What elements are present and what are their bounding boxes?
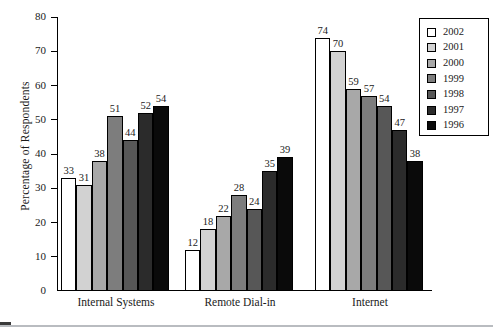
bar (346, 89, 361, 291)
y-axis-tick-label: 60 (0, 80, 46, 91)
bar-value-label: 70 (326, 39, 349, 50)
y-axis-tick-label: 40 (0, 148, 46, 159)
bar (61, 178, 76, 291)
legend-label: 1997 (443, 105, 464, 116)
x-axis-category-label: Remote Dial-in (180, 296, 300, 309)
bar (216, 216, 231, 291)
bar (92, 161, 107, 291)
bar (377, 106, 392, 291)
legend-swatch-icon (427, 121, 436, 130)
legend: 2002200120001999199819971996 (419, 18, 489, 136)
legend-swatch-icon (427, 74, 436, 83)
legend-swatch-icon (427, 106, 436, 115)
bar (361, 96, 376, 291)
bar-value-label: 51 (103, 104, 126, 115)
legend-label: 2000 (443, 58, 464, 69)
y-axis-tick-label: 50 (0, 114, 46, 125)
bar (200, 229, 215, 291)
bar-value-label: 39 (273, 145, 296, 156)
x-axis-category-label: Internet (310, 296, 430, 309)
legend-swatch-icon (427, 59, 436, 68)
bar (231, 195, 246, 291)
legend-item-2001[interactable]: 2001 (427, 41, 464, 55)
bar (315, 38, 330, 291)
y-axis-tick-label: 0 (0, 285, 46, 296)
legend-label: 2002 (443, 27, 464, 38)
bar-value-label: 74 (311, 26, 334, 37)
legend-swatch-icon (427, 90, 436, 99)
legend-swatch-icon (427, 43, 436, 52)
legend-swatch-icon (427, 28, 436, 37)
x-axis-category-label: Internal Systems (56, 296, 176, 309)
legend-item-1999[interactable]: 1999 (427, 72, 464, 86)
legend-item-1997[interactable]: 1997 (427, 103, 464, 117)
y-axis-tick-label: 10 (0, 251, 46, 262)
bar (76, 185, 91, 291)
bar (153, 106, 168, 291)
legend-item-2002[interactable]: 2002 (427, 25, 464, 39)
bar (262, 171, 277, 291)
bar-value-label: 28 (227, 183, 250, 194)
plot-area: 3331385144525412182228243539747059575447… (57, 17, 431, 291)
bar (107, 116, 122, 291)
bar (277, 157, 292, 291)
bar-value-label: 38 (403, 149, 426, 160)
bar-value-label: 54 (373, 94, 396, 105)
bar-value-label: 57 (357, 84, 380, 95)
legend-label: 1998 (443, 89, 464, 100)
legend-label: 2001 (443, 42, 464, 53)
y-axis-tick-label: 30 (0, 182, 46, 193)
legend-item-1998[interactable]: 1998 (427, 87, 464, 101)
legend-item-1996[interactable]: 1996 (427, 119, 464, 133)
y-axis-tick-label: 70 (0, 45, 46, 56)
bar-value-label: 54 (149, 94, 172, 105)
legend-label: 1999 (443, 74, 464, 85)
y-axis-tick-label: 20 (0, 217, 46, 228)
bar (407, 161, 422, 291)
bar (247, 209, 262, 291)
legend-item-2000[interactable]: 2000 (427, 56, 464, 70)
bar (138, 113, 153, 291)
y-axis-tick-label: 80 (0, 11, 46, 22)
bar-chart-figure: Percentage of Respondents 01020304050607… (0, 0, 493, 333)
bar (123, 140, 138, 291)
bar-value-label: 47 (388, 118, 411, 129)
footer-rule (0, 325, 493, 327)
legend-label: 1996 (443, 120, 464, 131)
bar (185, 250, 200, 291)
